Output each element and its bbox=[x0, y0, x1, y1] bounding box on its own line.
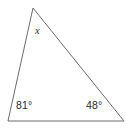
triangle-figure: 81° 48° x bbox=[0, 0, 126, 133]
angle-label-bottom-left: 81° bbox=[16, 100, 32, 111]
triangle-shape bbox=[0, 0, 126, 133]
angle-label-bottom-right: 48° bbox=[86, 100, 102, 111]
angle-label-apex-x: x bbox=[35, 26, 40, 37]
